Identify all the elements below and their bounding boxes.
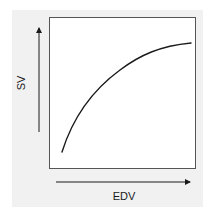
frank-starling-curve — [62, 43, 191, 152]
y-axis-label: SV — [14, 71, 28, 95]
x-axis-label: EDV — [108, 189, 140, 203]
chart-overlay — [0, 0, 211, 216]
